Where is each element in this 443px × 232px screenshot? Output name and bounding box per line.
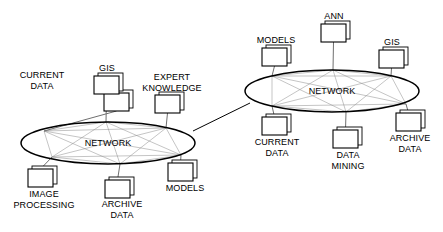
left-expert-knowledge-icon	[155, 92, 184, 113]
left-gis-label: GIS	[99, 63, 115, 74]
right-archive-data-label: ARCHIVE DATA	[390, 133, 431, 154]
chord-line	[166, 128, 181, 155]
right-data-mining-icon	[333, 127, 362, 148]
computer-node-icon-front	[396, 113, 421, 131]
inter-network-link	[193, 103, 250, 131]
right-gis-icon	[379, 47, 408, 68]
right-ann-label: ANN	[324, 11, 343, 22]
computer-node-icon-front	[105, 180, 130, 198]
left-expert-knowledge-label: EXPERT KNOWLEDGE	[142, 72, 201, 93]
computer-node-icon-front	[262, 48, 287, 66]
computer-node-icon-front	[321, 24, 346, 42]
chord-line	[52, 155, 181, 157]
computer-node-icon-front	[262, 117, 287, 135]
left-network-center-label: NETWORK	[85, 138, 132, 148]
computer-node-icon-front	[168, 163, 193, 181]
left-gis-icon	[94, 73, 123, 94]
right-ann-icon	[321, 21, 350, 42]
network-architecture-diagram: NETWORKCURRENT DATAGISEXPERT KNOWLEDGEIM…	[0, 0, 443, 232]
right-data-mining-label: DATA MINING	[331, 150, 364, 171]
chord-line	[272, 104, 406, 106]
right-models-icon	[262, 45, 291, 66]
left-expert-knowledge-leader	[166, 113, 168, 128]
computer-node-icon-front	[379, 50, 404, 68]
left-image-processing-icon	[28, 166, 57, 187]
right-current-data-icon	[262, 114, 291, 135]
chord-line	[391, 76, 406, 104]
left-models-icon	[168, 160, 197, 181]
right-gis-label: GIS	[384, 37, 400, 48]
right-current-data-label: CURRENT DATA	[255, 137, 300, 158]
right-archive-data-icon	[396, 110, 425, 131]
computer-node-icon-front	[333, 130, 358, 148]
left-models-label: MODELS	[166, 183, 205, 194]
right-network-center-label: NETWORK	[309, 86, 356, 96]
computer-node-icon-front	[94, 76, 119, 94]
left-archive-data-label: ARCHIVE DATA	[102, 199, 143, 220]
network-to-network-link	[193, 103, 250, 131]
right-models-label: MODELS	[257, 35, 296, 46]
left-archive-data-icon	[105, 177, 134, 198]
left-image-processing-label: IMAGE PROCESSING	[13, 189, 74, 210]
computer-node-icon-front	[155, 95, 180, 113]
left-current-data-label: CURRENT DATA	[20, 70, 65, 91]
chord-line	[44, 131, 52, 157]
right-gis-leader	[391, 68, 392, 76]
computer-node-icon-front	[104, 93, 129, 111]
computer-node-icon-front	[28, 169, 53, 187]
right-ann-leader	[333, 42, 334, 70]
right-models-leader	[272, 66, 275, 76]
